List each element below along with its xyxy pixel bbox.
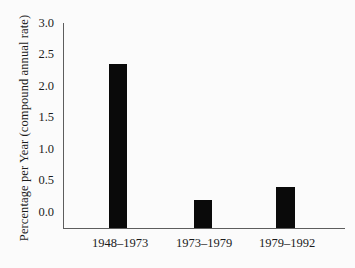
plot-area <box>63 23 345 229</box>
y-tick-label: 3.0 <box>26 17 54 30</box>
bar <box>276 187 295 228</box>
x-tick-label: 1973–1979 <box>159 236 249 251</box>
y-axis-line <box>63 23 64 229</box>
y-tick-label: 2.0 <box>26 80 54 93</box>
bar-chart-figure: Percentage per Year (compound annual rat… <box>0 0 355 268</box>
x-tick-label: 1979–1992 <box>242 236 332 251</box>
y-tick-label: 0.0 <box>26 206 54 219</box>
bar <box>194 200 212 227</box>
x-tick-label: 1948–1973 <box>75 236 165 251</box>
y-tick-label: 0.5 <box>26 174 54 187</box>
x-axis-line <box>63 228 345 229</box>
bar <box>109 64 127 228</box>
y-tick-label: 1.5 <box>26 111 54 124</box>
y-tick-label: 1.0 <box>26 143 54 156</box>
y-tick-label: 2.5 <box>26 48 54 61</box>
